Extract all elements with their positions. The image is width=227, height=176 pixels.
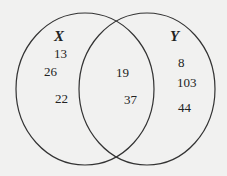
x-value-3: 22: [55, 92, 68, 105]
set-label-y: Y: [170, 30, 179, 43]
x-value-1: 13: [54, 47, 67, 60]
venn-diagram: X 13 26 22 19 37 Y 8 103 44: [0, 0, 227, 176]
xy-value-2: 37: [124, 93, 137, 106]
x-value-2: 26: [44, 65, 57, 78]
xy-value-1: 19: [116, 66, 129, 79]
y-value-1: 8: [178, 56, 185, 69]
set-label-x: X: [54, 30, 64, 43]
circle-x: [16, 13, 154, 165]
y-value-3: 44: [178, 101, 191, 114]
y-value-2: 103: [177, 76, 197, 89]
